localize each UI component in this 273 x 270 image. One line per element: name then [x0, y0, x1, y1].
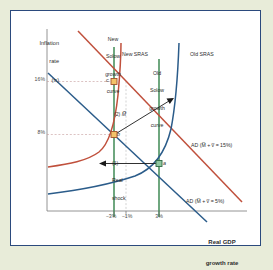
- x-tick-neg1: −1%: [117, 214, 137, 220]
- x-tick-3: 3%: [150, 214, 168, 220]
- point-label-c: c: [106, 77, 109, 83]
- point-label-a: a: [163, 160, 166, 166]
- label-ad-high: AD (M̅ + v̅ = 15%): [191, 143, 232, 149]
- label-solow-new-line-4: curve: [90, 89, 136, 95]
- label-solow-old-line-3: growth: [135, 106, 179, 112]
- label-solow-new-line-1: New: [90, 37, 136, 43]
- label-solow-new-line-3: growth: [90, 72, 136, 78]
- y-axis-title: Inflation rate (π): [17, 27, 59, 96]
- y-axis-title-line-1: Inflation: [17, 40, 59, 46]
- y-tick-8: 8%: [27, 130, 45, 136]
- annotation-real-shock-line-1: Real: [112, 178, 142, 184]
- label-solow-old-line-2: Solow: [135, 88, 179, 94]
- label-solow-old-line-4: curve: [135, 123, 179, 129]
- y-tick-16: 16%: [27, 77, 45, 83]
- annotation-money-growth-symbol: M̅: [122, 111, 126, 117]
- annotation-real-shock: (1) Real shock: [112, 149, 142, 213]
- annotation-real-shock-line-2: shock: [112, 196, 142, 202]
- label-solow-old: Old Solow growth curve: [135, 59, 179, 140]
- x-axis-title: Real GDP growth rate: [189, 226, 255, 270]
- point-marker-a: [156, 161, 162, 167]
- x-axis-title-line-2: growth rate: [189, 260, 255, 267]
- point-label-b: b: [117, 131, 120, 137]
- annotation-money-growth: (2) M̅: [114, 112, 126, 118]
- x-axis-title-line-1: Real GDP: [189, 239, 255, 246]
- label-sras-old: Old SRAS: [190, 52, 214, 58]
- label-ad-low: AD (M̅ + v̅ = 5%): [186, 199, 224, 205]
- y-axis-title-line-2: rate: [17, 58, 59, 64]
- label-solow-old-line-1: Old: [135, 71, 179, 77]
- label-solow-new: New Solow growth curve: [90, 25, 136, 106]
- chart-panel: Inflation rate (π) 16% 8% −3% −1% 3% Rea…: [10, 10, 261, 246]
- label-sras-new: New SRAS: [122, 52, 148, 58]
- annotation-real-shock-number: (1): [112, 161, 142, 167]
